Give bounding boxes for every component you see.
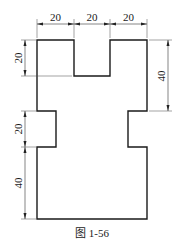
left-extension-lines (21, 40, 72, 219)
left-dimension-notch-depth: 20 (12, 40, 27, 76)
figure-caption: 图 1-56 (75, 227, 109, 239)
dim-label: 40 (12, 177, 24, 189)
top-dimension-left: 20 (37, 11, 74, 26)
arrow-icon (104, 23, 110, 26)
left-dimension-waist-height: 20 (12, 111, 27, 147)
top-dimension-right: 20 (110, 11, 147, 26)
arrow-icon (24, 147, 27, 153)
part-outline (37, 40, 147, 219)
dim-label: 20 (12, 123, 24, 135)
right-dimension-upper-block-height: 40 (155, 40, 170, 111)
technical-drawing: 20 20 20 20 20 40 (0, 0, 182, 242)
arrow-icon (74, 23, 80, 26)
arrow-icon (167, 40, 170, 46)
arrow-icon (24, 213, 27, 219)
arrow-icon (68, 23, 74, 26)
dim-label: 20 (123, 11, 135, 23)
arrow-icon (141, 23, 147, 26)
arrow-icon (37, 23, 43, 26)
dim-label: 40 (155, 70, 167, 82)
arrow-icon (24, 70, 27, 76)
dim-label: 20 (12, 52, 24, 64)
dim-label: 20 (87, 11, 99, 23)
dim-label: 20 (50, 11, 62, 23)
arrow-icon (167, 105, 170, 111)
top-dimension-middle: 20 (74, 11, 110, 26)
left-dimension-base-height: 40 (12, 147, 27, 219)
arrow-icon (24, 111, 27, 117)
arrow-icon (24, 40, 27, 46)
arrow-icon (24, 141, 27, 147)
arrow-icon (110, 23, 116, 26)
